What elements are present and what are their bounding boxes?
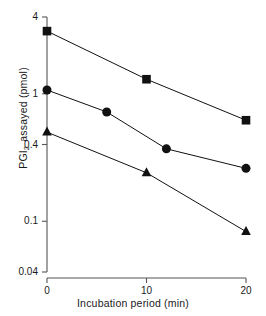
square-series-marker	[43, 27, 52, 36]
y-tick-label: 0.04	[0, 267, 38, 277]
y-axis-title-prefix: PGI	[17, 150, 29, 169]
circle-series-marker	[162, 144, 171, 153]
square-series-marker	[142, 75, 151, 84]
triangle-series-marker	[42, 127, 52, 136]
triangle-series-marker	[241, 226, 251, 235]
y-tick-label: 0.4	[0, 140, 38, 150]
y-axis-title: PGI2assayed (pmol)	[17, 43, 29, 193]
x-axis-title: Incubation period (min)	[0, 297, 266, 309]
plot-area	[0, 0, 266, 316]
y-tick-label: 0.1	[0, 216, 38, 226]
x-tick-label: 0	[22, 286, 72, 296]
x-tick-label: 10	[122, 286, 172, 296]
circle-series-marker	[43, 86, 52, 95]
circle-series-marker	[242, 164, 251, 173]
triangle-series-line	[47, 132, 246, 231]
y-axis-title-suffix: assayed (pmol)	[17, 67, 29, 142]
circle-series-marker	[102, 107, 111, 116]
y-tick-label: 1	[0, 89, 38, 99]
square-series-marker	[242, 116, 251, 125]
y-tick-label: 4	[0, 12, 38, 22]
x-tick-label: 20	[221, 286, 266, 296]
chart-container: PGI2assayed (pmol) Incubation period (mi…	[0, 0, 266, 316]
circle-series-line	[47, 90, 246, 168]
